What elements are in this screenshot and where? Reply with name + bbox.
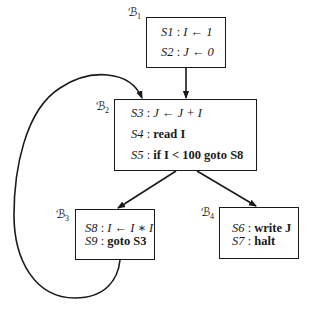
statement-sep: : (98, 221, 108, 235)
block-subscript: 1 (137, 12, 141, 21)
statement-code: if I < 100 goto S8 (153, 148, 243, 162)
statement-sep: : (245, 234, 255, 248)
block-subscript: 4 (210, 212, 214, 221)
block-letter: ℬ (201, 205, 210, 219)
statement-sep: : (245, 221, 255, 235)
statement-s7: S7 : halt (232, 234, 275, 249)
statement-id: S3 (131, 106, 144, 120)
statement-code: J ← J + I (153, 106, 202, 120)
block-label-b4: ℬ4 (201, 205, 214, 221)
statement-code: I ← 1 (183, 25, 212, 39)
statement-id: S1 (161, 25, 174, 39)
statement-s4: S4 : read I (131, 127, 185, 142)
statement-sep: : (144, 148, 154, 162)
statement-s2: S2 : J ← 0 (161, 45, 214, 60)
statement-code: read I (153, 127, 185, 141)
block-label-b3: ℬ3 (56, 207, 69, 223)
statement-s3: S3 : J ← J + I (131, 106, 202, 121)
statement-id: S5 (131, 148, 144, 162)
statement-sep: : (174, 45, 184, 59)
block-letter: ℬ (96, 99, 105, 113)
block-b4: S6 : write J S7 : halt (219, 207, 299, 259)
block-b3: S8 : I ← I ∗ I S9 : goto S3 (75, 209, 155, 260)
block-b1: S1 : I ← 1 S2 : J ← 0 (146, 17, 226, 68)
block-subscript: 2 (105, 106, 109, 115)
statement-code: J ← 0 (183, 45, 214, 59)
statement-code: goto S3 (107, 234, 146, 248)
statement-sep: : (98, 234, 108, 248)
statement-id: S7 (232, 234, 245, 248)
block-label-b1: ℬ1 (128, 5, 141, 21)
statement-code: halt (254, 234, 275, 248)
block-b2: S3 : J ← J + I S4 : read I S5 : if I < 1… (114, 99, 257, 171)
block-subscript: 3 (65, 214, 69, 223)
block-letter: ℬ (128, 5, 137, 19)
statement-id: S9 (85, 234, 98, 248)
statement-id: S8 (85, 221, 98, 235)
statement-sep: : (174, 25, 184, 39)
edge-b2-b4 (197, 171, 256, 206)
statement-code: write J (254, 221, 291, 235)
statement-sep: : (144, 127, 154, 141)
statement-code: I ← I ∗ I (107, 221, 153, 235)
block-letter: ℬ (56, 207, 65, 221)
statement-id: S4 (131, 127, 144, 141)
statement-id: S2 (161, 45, 174, 59)
statement-s9: S9 : goto S3 (85, 234, 146, 249)
statement-s1: S1 : I ← 1 (161, 25, 212, 40)
block-label-b2: ℬ2 (96, 99, 109, 115)
statement-id: S6 (232, 221, 245, 235)
edge-b2-b3 (118, 171, 176, 208)
statement-s5: S5 : if I < 100 goto S8 (131, 148, 243, 163)
statement-sep: : (144, 106, 154, 120)
